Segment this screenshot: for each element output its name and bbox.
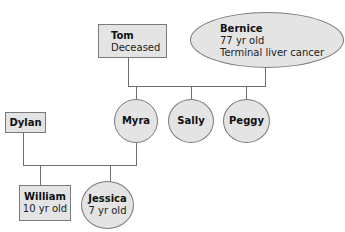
dylan-name: Dylan <box>9 117 41 129</box>
myra-name: Myra <box>122 115 150 127</box>
bernice-name: Bernice <box>220 23 343 35</box>
tom-name: Tom <box>111 30 166 42</box>
person-myra: Myra <box>114 99 158 143</box>
peggy-name: Peggy <box>229 115 264 127</box>
sally-drop-line <box>191 86 192 99</box>
person-bernice: Bernice 77 yr old Terminal liver cancer <box>190 12 344 68</box>
person-peggy: Peggy <box>223 99 270 143</box>
william-name: William <box>24 191 66 203</box>
person-tom: Tom Deceased <box>98 24 167 58</box>
bernice-descent-line <box>265 67 266 86</box>
tom-status: Deceased <box>111 42 166 54</box>
jessica-drop-line <box>110 165 111 182</box>
william-age: 10 yr old <box>23 203 67 215</box>
tom-descent-line <box>128 58 129 86</box>
bernice-condition: Terminal liver cancer <box>220 47 343 59</box>
myra-descent-line <box>136 143 137 165</box>
person-sally: Sally <box>168 99 214 143</box>
dylan-descent-line <box>23 133 24 165</box>
sally-name: Sally <box>177 115 204 127</box>
myra-drop-line <box>136 86 137 99</box>
person-william: William 10 yr old <box>19 185 71 221</box>
bernice-age: 77 yr old <box>220 35 343 47</box>
peggy-drop-line <box>246 86 247 99</box>
person-jessica: Jessica 7 yr old <box>81 181 134 229</box>
jessica-age: 7 yr old <box>89 205 127 217</box>
person-dylan: Dylan <box>5 112 46 133</box>
william-drop-line <box>40 165 41 185</box>
jessica-name: Jessica <box>88 193 127 205</box>
